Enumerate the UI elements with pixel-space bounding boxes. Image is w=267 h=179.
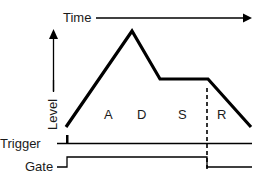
phase-label-release: R	[217, 107, 226, 122]
adsr-envelope-diagram: Time Level A D S R Trigger Gate	[0, 0, 267, 179]
phase-label-attack: A	[104, 107, 113, 122]
phase-label-decay: D	[137, 107, 146, 122]
gate-label: Gate	[25, 159, 53, 174]
level-arrow-head-icon	[49, 29, 58, 39]
phase-label-sustain: S	[178, 107, 187, 122]
trigger-pulse	[66, 135, 69, 144]
time-axis-label: Time	[63, 10, 91, 25]
gate-signal-line	[57, 157, 252, 167]
time-arrow-head-icon	[243, 14, 252, 23]
level-axis-label: Level	[45, 99, 60, 130]
trigger-label: Trigger	[0, 136, 41, 151]
